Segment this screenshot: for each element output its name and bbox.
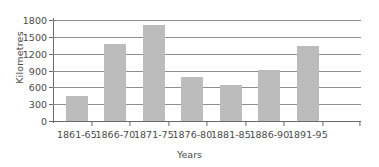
bar (297, 46, 319, 121)
y-tick-label: 1500 (23, 31, 47, 42)
plot-area: 0300600900120015001800 1861-651866-70187… (53, 19, 361, 122)
bar-chart-figure: Kilometres 0300600900120015001800 1861-6… (0, 0, 379, 167)
x-tick-label: 1861-65 (57, 129, 97, 140)
y-tick-label: 1200 (23, 48, 47, 59)
x-axis-title: Years (0, 149, 379, 160)
bar (181, 77, 203, 121)
y-tick-label: 300 (29, 99, 47, 110)
bar (258, 70, 280, 121)
y-tick-label: 600 (29, 82, 47, 93)
x-tick-label: 1871-75 (134, 129, 174, 140)
x-tick-label: 1866-70 (96, 129, 136, 140)
x-tick-mark (245, 122, 246, 126)
x-tick-mark (129, 122, 130, 126)
y-tick-label: 900 (29, 65, 47, 76)
x-tick-mark (283, 122, 284, 126)
x-tick-mark (168, 122, 169, 126)
x-tick-label: 1876-80 (173, 129, 213, 140)
y-tick-label: 1800 (23, 15, 47, 26)
bar (66, 96, 88, 121)
x-tick-mark (206, 122, 207, 126)
x-tick-mark (322, 122, 323, 126)
bar (220, 85, 242, 121)
bar (143, 25, 165, 122)
x-tick-label: 1891-95 (288, 129, 328, 140)
x-tick-mark (91, 122, 92, 126)
y-tick-label: 0 (41, 116, 47, 127)
x-tick-mark-end (359, 122, 360, 126)
bar (104, 44, 126, 121)
x-tick-label: 1886-90 (250, 129, 290, 140)
bar-series (53, 19, 361, 122)
x-tick-label: 1881-85 (211, 129, 251, 140)
